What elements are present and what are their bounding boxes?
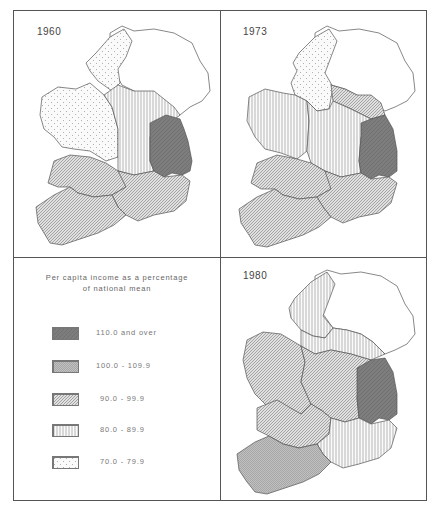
legend-item-70-79: 70.0 - 79.9 xyxy=(52,456,212,470)
map-panel-1973: 1973 xyxy=(221,11,427,257)
legend-item-80-89: 80.0 - 89.9 xyxy=(52,424,212,438)
legend-item-90-99: 90.0 - 99.9 xyxy=(52,393,212,407)
legend-label: 80.0 - 89.9 xyxy=(100,425,145,434)
swatch-diagonal-hatch xyxy=(52,393,79,406)
legend-title-line-1: Per capita income as a percentage xyxy=(14,272,220,283)
legend-label: 110.0 and over xyxy=(96,328,157,337)
ireland-map-1960 xyxy=(14,11,220,257)
swatch-dark xyxy=(52,327,79,340)
legend-item-110-and-over: 110.0 and over xyxy=(52,327,212,341)
legend-item-100-109: 100.0 - 109.9 xyxy=(52,360,212,374)
legend-label: 70.0 - 79.9 xyxy=(100,457,145,466)
swatch-vertical-lines xyxy=(52,424,79,437)
ireland-map-1973 xyxy=(221,11,427,257)
legend-label: 100.0 - 109.9 xyxy=(96,361,151,370)
legend-label: 90.0 - 99.9 xyxy=(100,394,145,403)
swatch-dots xyxy=(52,456,79,469)
legend-title-line-2: of national mean xyxy=(14,283,220,294)
legend-title: Per capita income as a percentage of nat… xyxy=(14,272,220,294)
ireland-map-1980 xyxy=(221,258,427,500)
swatch-fine-crosshatch xyxy=(52,360,79,373)
map-panel-1980: 1980 xyxy=(221,258,427,500)
map-panel-1960: 1960 xyxy=(14,11,220,257)
